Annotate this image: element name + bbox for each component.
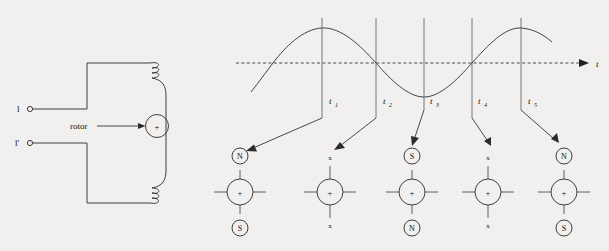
time-marker-4-arrow-line	[472, 118, 487, 140]
rotor-state-5-top-label: N	[561, 152, 567, 161]
time-marker-1-arrowhead	[246, 145, 257, 152]
terminal-lprime-label: l'	[15, 138, 20, 148]
time-marker-3-arrowhead	[411, 136, 419, 146]
rotor-state-5: + N S	[538, 148, 590, 236]
time-marker-5-sublabel: 5	[534, 102, 537, 108]
rotor-symbol: +	[146, 115, 169, 138]
rotor-state-5-bottom-label: S	[562, 224, 566, 233]
rotor-state-2: + x x	[304, 154, 356, 230]
time-marker-5-arrow-line	[521, 110, 553, 138]
rotor-state-3: + S N	[386, 148, 438, 236]
coil-bottom-windings	[150, 188, 159, 203]
time-marker-4-arrowhead	[484, 137, 491, 146]
rotor-state-4-top-label: x	[486, 154, 490, 162]
rotor-state-2-bottom-label: x	[328, 222, 332, 230]
coil-top-windings	[150, 63, 159, 78]
time-marker-4: t 4	[472, 18, 491, 146]
time-marker-3-label: t	[430, 96, 433, 106]
rotor-state-1: + N S	[214, 148, 266, 236]
rotor-state-4-bottom-label: x	[486, 222, 490, 230]
terminal-lprime-node[interactable]	[27, 140, 32, 145]
rotor-state-2-center-glyph: +	[328, 188, 333, 198]
rotor-state-5-center-glyph: +	[562, 188, 567, 198]
time-marker-4-sublabel: 4	[484, 102, 487, 108]
waveform-group: t t 1 t 2 t 3	[236, 18, 599, 152]
terminal-l[interactable]: l	[17, 63, 150, 114]
time-axis-label: t	[596, 59, 599, 69]
terminal-lprime[interactable]: l'	[15, 138, 150, 203]
rotor-state-1-bottom-label: S	[238, 224, 242, 233]
terminal-l-label: l	[17, 104, 20, 114]
terminal-lprime-wire	[33, 143, 150, 203]
time-marker-5: t 5	[521, 18, 559, 143]
rotor-state-3-bottom-label: N	[409, 224, 415, 233]
time-marker-5-arrowhead	[551, 133, 559, 143]
time-marker-2-arrow-line	[340, 118, 376, 146]
rotor-state-4: + x x	[462, 154, 514, 230]
time-marker-4-label: t	[478, 96, 481, 106]
rotor-state-1-top-label: N	[237, 152, 243, 161]
time-marker-1: t 1	[246, 18, 338, 152]
rotor-plus-glyph: +	[155, 122, 160, 132]
time-marker-3-arrow-line	[414, 110, 424, 140]
rotor-label: rotor	[70, 121, 88, 131]
time-axis-arrowhead	[579, 59, 589, 67]
rotor-state-1-center-glyph: +	[238, 188, 243, 198]
time-marker-1-arrow-line	[253, 118, 322, 148]
time-marker-1-label: t	[329, 96, 332, 106]
time-marker-5-label: t	[528, 96, 531, 106]
time-marker-3-sublabel: 3	[435, 102, 439, 108]
time-marker-2: t 2	[334, 18, 392, 150]
time-marker-2-label: t	[383, 96, 386, 106]
terminal-l-node[interactable]	[27, 106, 32, 111]
rotor-annotation: rotor	[70, 121, 146, 131]
rotor-state-3-center-glyph: +	[410, 188, 415, 198]
time-marker-3: t 3	[411, 18, 439, 146]
rotor-state-4-center-glyph: +	[486, 188, 491, 198]
rotor-state-2-top-label: x	[328, 154, 332, 162]
rotor-pointer-arrowhead	[138, 123, 146, 129]
coil-top-lead	[152, 78, 166, 126]
rotor-state-3-top-label: S	[410, 152, 414, 161]
diagram-svg: l l' + rotor	[0, 0, 609, 251]
figure-canvas: l l' + rotor	[0, 0, 609, 251]
circuit-group: l l' + rotor	[15, 63, 169, 204]
terminal-l-wire	[33, 63, 150, 109]
time-marker-1-sublabel: 1	[335, 102, 338, 108]
sine-curve	[251, 28, 552, 97]
time-marker-2-sublabel: 2	[389, 102, 392, 108]
